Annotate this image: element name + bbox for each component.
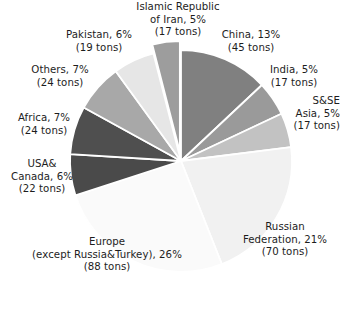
slice-label-india: India, 5% (17 tons) [248, 64, 340, 89]
slice-label-china: China, 13% (45 tons) [196, 29, 306, 54]
slice-label-africa: Africa, 7% (24 tons) [2, 112, 86, 137]
slice-label-usa-and-canada: USA& Canada, 6% (22 tons) [2, 158, 82, 196]
slice-label-europe: Europe (except Russia&Turkey), 26% (88 t… [10, 236, 204, 274]
slice-label-s-and-se-asia: S&SE Asia, 5% (17 tons) [243, 95, 340, 133]
slice-label-others: Others, 7% (24 tons) [14, 64, 106, 89]
slice-label-pakistan: Pakistan, 6% (19 tons) [44, 29, 154, 54]
cut-off-caption [18, 306, 328, 316]
slice-label-russian-federation: Russian Federation, 21% (70 tons) [228, 221, 342, 259]
pie-chart: Islamic Republic of Iran, 5% (17 tons) C… [0, 0, 343, 316]
